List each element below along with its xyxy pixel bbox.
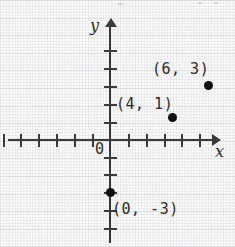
origin-label: 0 [95, 140, 104, 158]
x-axis-tick [164, 134, 166, 147]
y-axis-tick [104, 122, 117, 124]
x-axis-tick [20, 134, 22, 147]
x-axis-tick [38, 134, 40, 147]
data-point-label-0-neg3: (0, -3) [112, 200, 179, 218]
x-axis-tick [74, 134, 76, 147]
data-point-0-neg3 [106, 188, 115, 197]
x-axis-tick [3, 134, 5, 147]
data-point-label-4-1: (4, 1) [116, 95, 173, 113]
data-point-4-1 [168, 113, 177, 122]
x-axis-tick [181, 134, 183, 147]
data-point-label-6-3: (6, 3) [152, 60, 209, 78]
y-axis-arrow-icon [105, 18, 117, 27]
y-axis-tick [104, 157, 117, 159]
plot-area: y x 0 (6, 3) (4, 1) (0, -3) [0, 0, 235, 247]
x-axis-tick [128, 134, 130, 147]
data-point-6-3 [204, 81, 213, 90]
coordinate-plane-figure: y x 0 (6, 3) (4, 1) (0, -3) [0, 0, 235, 247]
x-axis-tick [199, 134, 201, 147]
y-axis-tick [104, 50, 117, 52]
y-axis-tick [104, 68, 117, 70]
y-axis-tick [104, 228, 117, 230]
y-axis-tick [104, 174, 117, 176]
x-axis-tick [56, 134, 58, 147]
y-axis-label: y [90, 16, 99, 35]
y-axis-tick [104, 86, 117, 88]
x-axis-tick [92, 134, 94, 147]
x-axis-label: x [215, 142, 224, 161]
x-axis-tick [146, 134, 148, 147]
